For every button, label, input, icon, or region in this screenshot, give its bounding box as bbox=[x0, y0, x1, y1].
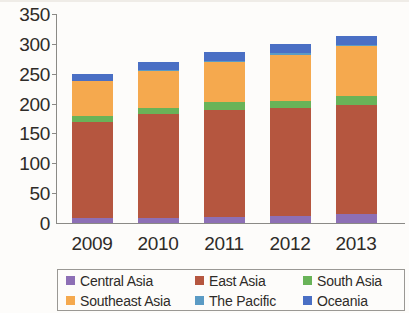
bar-segment-east-asia bbox=[270, 108, 311, 215]
y-tick-mark bbox=[52, 104, 57, 105]
plot-area: 050100150200250300350 200920102011201220… bbox=[0, 0, 409, 265]
bar-segment-oceania bbox=[204, 52, 245, 61]
bar-segment-east-asia bbox=[72, 122, 113, 219]
legend-item-southeast-asia[interactable]: Southeast Asia bbox=[66, 290, 171, 311]
bar-segment-the-pacific bbox=[270, 53, 311, 54]
bar-segment-oceania bbox=[72, 74, 113, 81]
bar-segment-central-asia bbox=[270, 216, 311, 223]
legend-item-central-asia[interactable]: Central Asia bbox=[66, 270, 153, 291]
bar-column-2013 bbox=[336, 14, 377, 223]
bar-segment-oceania bbox=[270, 44, 311, 53]
bar-segment-south-asia bbox=[72, 116, 113, 122]
bar-segment-south-asia bbox=[138, 108, 179, 114]
legend-row-1: Central AsiaEast AsiaSouth Asia bbox=[58, 270, 404, 291]
legend-label: Southeast Asia bbox=[80, 294, 171, 308]
legend-label: Central Asia bbox=[80, 274, 153, 288]
legend-swatch-icon bbox=[195, 276, 204, 285]
legend-swatch-icon bbox=[66, 296, 75, 305]
x-tick-label: 2010 bbox=[125, 233, 191, 255]
stacked-bar-chart: 050100150200250300350 200920102011201220… bbox=[0, 0, 409, 313]
bar-segment-central-asia bbox=[72, 218, 113, 223]
bar-column-2009 bbox=[72, 14, 113, 223]
bar-segment-southeast-asia bbox=[72, 81, 113, 115]
bar-segment-southeast-asia bbox=[270, 55, 311, 101]
legend-row-2: Southeast AsiaThe PacificOceania bbox=[58, 290, 404, 311]
bar-stack bbox=[72, 74, 113, 223]
bar-segment-south-asia bbox=[336, 96, 377, 104]
legend-swatch-icon bbox=[66, 276, 75, 285]
legend-label: South Asia bbox=[317, 274, 382, 288]
bar-segment-central-asia bbox=[204, 217, 245, 223]
x-tick-label: 2013 bbox=[323, 233, 389, 255]
legend-label: Oceania bbox=[317, 294, 368, 308]
legend: Central AsiaEast AsiaSouth Asia Southeas… bbox=[57, 269, 405, 311]
y-tick-mark bbox=[52, 133, 57, 134]
x-tick-label: 2009 bbox=[59, 233, 125, 255]
y-tick-mark bbox=[52, 163, 57, 164]
bar-column-2012 bbox=[270, 14, 311, 223]
legend-label: East Asia bbox=[209, 274, 266, 288]
bar-segment-southeast-asia bbox=[204, 62, 245, 103]
bar-segment-east-asia bbox=[336, 105, 377, 214]
legend-swatch-icon bbox=[195, 296, 204, 305]
legend-item-oceania[interactable]: Oceania bbox=[303, 290, 368, 311]
x-tick-label: 2012 bbox=[257, 233, 323, 255]
bar-segment-southeast-asia bbox=[336, 46, 377, 96]
bar-segment-oceania bbox=[336, 36, 377, 45]
bar-stack bbox=[270, 44, 311, 223]
bar-column-2010 bbox=[138, 14, 179, 223]
legend-item-south-asia[interactable]: South Asia bbox=[303, 270, 382, 291]
bar-segment-central-asia bbox=[336, 214, 377, 223]
bar-segment-east-asia bbox=[204, 110, 245, 217]
legend-swatch-icon bbox=[303, 296, 312, 305]
bar-segment-southeast-asia bbox=[138, 71, 179, 108]
legend-item-east-asia[interactable]: East Asia bbox=[195, 270, 266, 291]
legend-item-the-pacific[interactable]: The Pacific bbox=[195, 290, 276, 311]
y-tick-mark bbox=[52, 44, 57, 45]
legend-label: The Pacific bbox=[209, 294, 276, 308]
y-tick-mark bbox=[52, 14, 57, 15]
legend-swatch-icon bbox=[303, 276, 312, 285]
x-tick-label: 2011 bbox=[191, 233, 257, 255]
bar-stack bbox=[204, 52, 245, 223]
y-tick-mark bbox=[52, 193, 57, 194]
bar-segment-south-asia bbox=[270, 101, 311, 109]
bar-segment-south-asia bbox=[204, 102, 245, 109]
bar-segment-central-asia bbox=[138, 218, 179, 223]
bar-segment-east-asia bbox=[138, 114, 179, 219]
y-tick-mark bbox=[52, 74, 57, 75]
bar-segment-oceania bbox=[138, 62, 179, 70]
bar-column-2011 bbox=[204, 14, 245, 223]
bar-stack bbox=[138, 62, 179, 223]
bars-layer: 20092010201120122013 bbox=[0, 0, 409, 265]
bar-segment-the-pacific bbox=[336, 45, 377, 46]
bar-stack bbox=[336, 36, 377, 223]
